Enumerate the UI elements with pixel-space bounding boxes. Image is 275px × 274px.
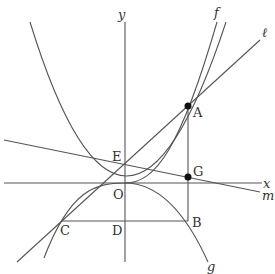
line-m <box>4 140 260 192</box>
curve-f-label: f <box>214 6 219 19</box>
point-E-label: E <box>112 150 122 163</box>
point-A-dot <box>185 103 192 110</box>
origin-label: O <box>113 188 124 201</box>
point-A-label: A <box>193 106 202 119</box>
curve-g-label: g <box>207 260 215 273</box>
line-l-label: ℓ <box>262 26 267 39</box>
diagram-canvas <box>0 0 275 274</box>
point-G-dot <box>185 174 192 181</box>
line-m-label: m <box>262 189 274 202</box>
point-G-label: G <box>193 165 203 178</box>
parabola-curve <box>30 22 226 176</box>
point-C-label: C <box>60 224 70 237</box>
point-D-label: D <box>112 224 122 237</box>
line-l <box>17 40 260 262</box>
point-B-label: B <box>192 216 202 229</box>
diagram: y x O f g ℓ m A B C D E G <box>0 0 275 274</box>
y-axis-label: y <box>118 8 125 21</box>
